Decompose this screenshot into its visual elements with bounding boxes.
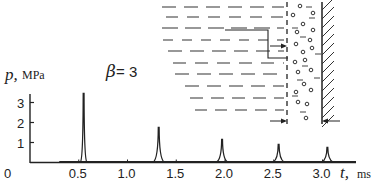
y-tick-label: 3 bbox=[17, 96, 24, 111]
x-tick-label: 2.5 bbox=[264, 166, 282, 181]
x-tick-label: 0 bbox=[4, 166, 11, 181]
x-tick-label: 0.5 bbox=[69, 166, 87, 181]
bubble bbox=[301, 50, 305, 54]
bubble bbox=[302, 82, 306, 86]
bubble bbox=[309, 68, 313, 72]
bubble-layer bbox=[291, 4, 321, 120]
bubble bbox=[311, 28, 315, 32]
bubble bbox=[310, 46, 314, 50]
bubble bbox=[303, 58, 307, 62]
thickness-arrow-right-head bbox=[322, 119, 328, 124]
x-tick-label: 1.5 bbox=[166, 166, 184, 181]
x-tick-label: 3.0 bbox=[313, 166, 331, 181]
pressure-peak bbox=[217, 140, 228, 163]
thickness-arrow-left-head bbox=[281, 119, 287, 124]
bubble bbox=[298, 4, 302, 8]
bubble bbox=[309, 88, 313, 92]
hatched-wall bbox=[322, 0, 334, 127]
beta-value: = 3 bbox=[116, 63, 137, 80]
inset-schematic bbox=[162, 0, 340, 127]
x-tick-label: 1.0 bbox=[118, 166, 136, 181]
x-tick-label: 2.0 bbox=[215, 166, 233, 181]
bubble bbox=[294, 90, 298, 94]
bubble bbox=[311, 11, 315, 15]
bubble bbox=[294, 42, 298, 46]
bubble bbox=[304, 116, 308, 120]
bubble bbox=[305, 102, 309, 106]
pressure-chart: 123 00.51.01.52.02.53.0 p, MPa t, ms β =… bbox=[0, 0, 383, 184]
dashed-liquid-lines bbox=[162, 7, 284, 110]
y-axis-label-var: p, bbox=[4, 65, 18, 84]
bubble bbox=[296, 70, 300, 74]
bubble bbox=[295, 30, 299, 34]
pressure-peak bbox=[153, 128, 164, 163]
x-axis-label-unit: ms bbox=[357, 167, 371, 181]
beta-symbol: β bbox=[105, 61, 116, 81]
incident-wave-path bbox=[225, 30, 288, 58]
y-tick-label: 1 bbox=[17, 136, 24, 151]
arrow-in-head bbox=[281, 44, 287, 49]
y-axis-label-unit: MPa bbox=[22, 68, 45, 82]
y-tick-label: 2 bbox=[17, 116, 24, 131]
bubble bbox=[308, 38, 312, 42]
pressure-peak bbox=[80, 94, 86, 163]
bubble bbox=[301, 22, 305, 26]
bubble bbox=[293, 60, 297, 64]
pressure-peak bbox=[273, 145, 284, 163]
x-axis-label-var: t, bbox=[340, 163, 349, 182]
bubble bbox=[291, 13, 295, 17]
bubble bbox=[296, 100, 300, 104]
pressure-peak bbox=[322, 148, 333, 163]
